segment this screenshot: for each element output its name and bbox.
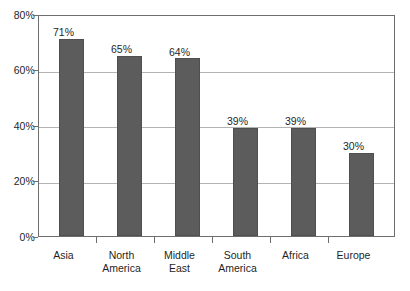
x-axis-category-label-asia: Asia: [39, 249, 88, 262]
x-axis-category-label-north-america-line1: North: [97, 249, 146, 262]
bar-value-africa: 39%: [273, 116, 318, 127]
gridline-20: [39, 183, 394, 184]
x-axis-tick-mark-5: [328, 237, 329, 243]
x-axis-category-label-south-america-line2: America: [213, 262, 262, 275]
x-axis-category-label-africa: Africa: [271, 249, 320, 262]
bar-north-america[interactable]: [117, 56, 142, 236]
x-axis-category-label-europe-line1: Europe: [329, 249, 378, 262]
bar-middle-east[interactable]: [175, 58, 200, 236]
y-axis-tick-label-80: 80%: [14, 10, 35, 21]
x-axis-tick-mark-3: [212, 237, 213, 243]
gridline-60: [39, 72, 394, 73]
x-axis-category-label-middle-east-line1: Middle: [155, 249, 204, 262]
x-axis-category-label-middle-east: Middle East: [155, 249, 204, 275]
bar-africa[interactable]: [291, 128, 316, 236]
x-axis-category-label-middle-east-line2: East: [155, 262, 204, 275]
y-axis-tick-label-20: 20%: [14, 176, 35, 187]
gridline-40: [39, 127, 394, 128]
x-axis-tick-mark-1: [96, 237, 97, 243]
x-axis-category-label-asia-line1: Asia: [39, 249, 88, 262]
x-axis-category-label-south-america-line1: South: [213, 249, 262, 262]
bar-south-america[interactable]: [233, 128, 258, 236]
y-axis-tick-mark-0: [33, 237, 38, 238]
bar-value-europe: 30%: [331, 141, 376, 152]
bar-chart: 80% 60% 40% 20% 0% 71% 65% 64% 39% 39% 3…: [0, 0, 410, 291]
x-axis-category-label-north-america-line2: America: [97, 262, 146, 275]
x-axis-category-label-europe: Europe: [329, 249, 378, 262]
bar-asia[interactable]: [59, 39, 84, 236]
x-axis-tick-mark-2: [154, 237, 155, 243]
bar-value-asia: 71%: [41, 27, 86, 38]
y-axis-tick-label-40: 40%: [14, 121, 35, 132]
x-axis-tick-mark-4: [270, 237, 271, 243]
bar-value-middle-east: 64%: [157, 47, 202, 58]
y-axis-tick-label-60: 60%: [14, 65, 35, 76]
bar-europe[interactable]: [349, 153, 374, 236]
bar-value-north-america: 65%: [99, 44, 144, 55]
bar-value-south-america: 39%: [215, 116, 260, 127]
x-axis-category-label-africa-line1: Africa: [271, 249, 320, 262]
x-axis-category-label-north-america: North America: [97, 249, 146, 275]
x-axis-category-label-south-america: South America: [213, 249, 262, 275]
